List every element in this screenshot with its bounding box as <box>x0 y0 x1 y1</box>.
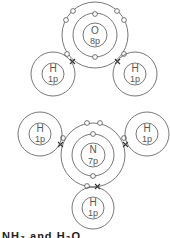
hydrogen-atom-left: H 1p <box>18 112 62 156</box>
electron <box>64 18 69 23</box>
oxygen-protons: 8p <box>90 36 100 46</box>
caption: NH₃ and H₂O <box>2 230 81 238</box>
hydrogen-atom-bottom: H 1p <box>72 187 114 229</box>
nitrogen-atom: N 7p <box>58 121 128 189</box>
hydrogen-symbol: H <box>143 123 150 134</box>
hydrogen-protons: 1p <box>130 74 140 84</box>
hydrogen-protons: 1p <box>48 74 58 84</box>
electron-shell-diagram: O 8p H 1p <box>0 0 170 238</box>
hydrogen-atom-left: H 1p <box>31 52 75 96</box>
hydrogen-atom-right: H 1p <box>125 112 169 156</box>
electron <box>93 12 98 17</box>
electron <box>115 9 120 14</box>
hydrogen-symbol: H <box>131 63 138 74</box>
electron <box>93 55 98 60</box>
nitrogen-symbol: N <box>89 144 96 155</box>
electron <box>91 132 96 137</box>
nitrogen-inner-shell <box>72 134 114 176</box>
electron <box>122 18 127 23</box>
nitrogen-protons: 7p <box>88 156 98 166</box>
ammonia-molecule: N 7p H 1p <box>18 112 169 229</box>
hydrogen-symbol: H <box>36 123 43 134</box>
water-molecule: O 8p H 1p <box>31 2 157 96</box>
electron <box>98 121 103 126</box>
hydrogen-protons: 1p <box>88 208 98 218</box>
oxygen-symbol: O <box>91 25 99 36</box>
hydrogen-symbol: H <box>89 197 96 208</box>
hydrogen-symbol: H <box>49 63 56 74</box>
electron <box>85 121 90 126</box>
hydrogen-protons: 1p <box>35 134 45 144</box>
electron <box>91 174 96 179</box>
oxygen-atom: O 8p <box>62 2 128 68</box>
electron <box>71 9 76 14</box>
hydrogen-atom-right: H 1p <box>113 52 157 96</box>
hydrogen-protons: 1p <box>142 134 152 144</box>
